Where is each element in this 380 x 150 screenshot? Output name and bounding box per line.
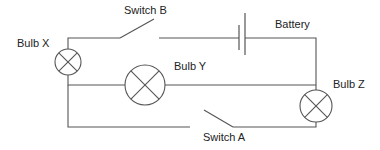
battery-label: Battery [275, 18, 310, 30]
bulb-x-icon [55, 49, 81, 75]
switch-a-blade [204, 110, 233, 127]
wire-top-right [245, 38, 316, 90]
wire-top-left [68, 38, 120, 49]
bulb-z-label: Bulb Z [333, 78, 365, 90]
switch-a-label: Switch A [203, 131, 245, 143]
bulb-y-icon [125, 65, 165, 105]
bulb-y-label: Bulb Y [174, 60, 206, 72]
circuit-diagram [0, 0, 380, 150]
switch-b-label: Switch B [124, 4, 167, 16]
bulb-z-icon [300, 90, 332, 122]
wire-middle-left [68, 75, 125, 85]
bulb-x-label: Bulb X [17, 37, 49, 49]
wire-bottom-right [233, 122, 316, 127]
switch-b-blade [120, 19, 154, 38]
